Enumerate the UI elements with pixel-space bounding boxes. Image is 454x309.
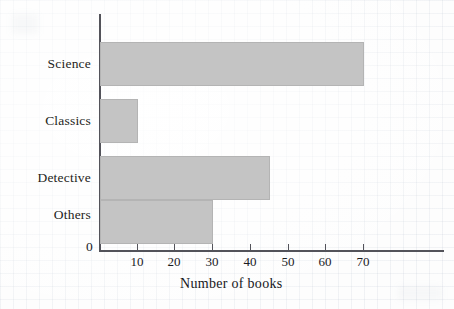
- x-tick-mark: [137, 244, 138, 251]
- x-tick-mark: [250, 244, 251, 251]
- x-tick-label-20: 20: [154, 254, 194, 270]
- category-label-classics: Classics: [0, 113, 91, 129]
- x-tick-mark: [174, 244, 175, 251]
- x-tick-label-50: 50: [268, 254, 308, 270]
- x-axis-title: Number of books: [180, 276, 283, 292]
- bar-detective: [100, 156, 270, 200]
- bar-classics: [100, 99, 138, 143]
- x-tick-label-40: 40: [230, 254, 270, 270]
- origin-label: 0: [86, 239, 93, 255]
- x-tick-label-70: 70: [343, 254, 383, 270]
- x-tick-label-30: 30: [192, 254, 232, 270]
- x-axis-line: [99, 250, 444, 252]
- x-tick-mark: [325, 244, 326, 251]
- x-tick-label-60: 60: [305, 254, 345, 270]
- bar-others: [100, 200, 213, 244]
- category-label-detective: Detective: [0, 170, 91, 186]
- x-tick-mark: [212, 244, 213, 251]
- x-tick-mark: [363, 244, 364, 251]
- bar-chart-plot-area: Science Classics Detective Others 0 10 2…: [0, 0, 454, 309]
- category-label-others: Others: [0, 207, 91, 223]
- chart-figure: Science Classics Detective Others 0 10 2…: [0, 0, 454, 309]
- x-tick-mark: [288, 244, 289, 251]
- bar-science: [100, 42, 364, 86]
- x-tick-label-10: 10: [117, 254, 157, 270]
- category-label-science: Science: [0, 56, 91, 72]
